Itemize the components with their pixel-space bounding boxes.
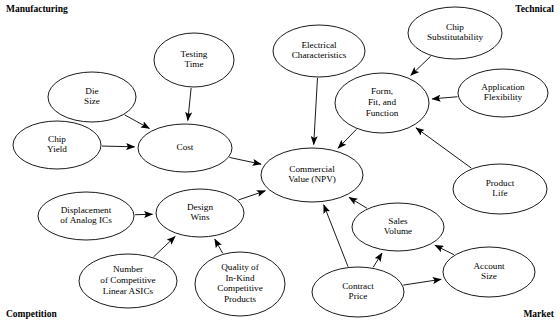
node-commercial[interactable]: CommercialValue (NPV)	[261, 148, 363, 202]
edge-die_size-to-cost	[125, 115, 150, 129]
edge-num_competitive-to-design_wins	[154, 236, 176, 256]
node-testing_time[interactable]: TestingTime	[154, 33, 234, 87]
node-cost[interactable]: Cost	[138, 124, 232, 172]
corner-label-technical: Technical	[515, 4, 554, 14]
edge-contract_price-to-account_size	[403, 279, 441, 285]
edge-sales_volume-to-commercial	[349, 197, 367, 208]
node-label-design_wins: DesignWins	[187, 202, 213, 223]
edge-design_wins-to-commercial	[238, 191, 265, 200]
node-label-cost: Cost	[177, 142, 194, 152]
corner-label-market: Market	[523, 309, 554, 319]
edge-testing_time-to-cost	[188, 88, 191, 121]
node-displacement[interactable]: Displacementof Analog ICs	[38, 192, 134, 240]
edge-form_fit-to-commercial	[338, 129, 356, 148]
node-label-commercial: CommercialValue (NPV)	[288, 164, 336, 185]
node-die_size[interactable]: DieSize	[48, 72, 136, 122]
node-design_wins[interactable]: DesignWins	[156, 189, 244, 237]
edge-account_size-to-sales_volume	[435, 245, 454, 254]
node-chip_yield[interactable]: ChipYield	[13, 121, 101, 169]
node-sales_volume[interactable]: SalesVolume	[352, 203, 444, 251]
node-label-quality_inkind: Quality ofIn-KindCompetitiveProducts	[217, 262, 262, 304]
edge-app_flex-to-form_fit	[432, 97, 457, 99]
diagram-svg: DieSizeTestingTimeChipYieldCostElectrica…	[0, 0, 560, 323]
node-quality_inkind[interactable]: Quality ofIn-KindCompetitiveProducts	[195, 252, 285, 316]
edge-contract_price-to-sales_volume	[373, 253, 382, 267]
node-num_competitive[interactable]: Numberof CompetitiveLinear ASICs	[79, 254, 177, 308]
node-account_size[interactable]: AccountSize	[443, 247, 535, 297]
influence-diagram-canvas: DieSizeTestingTimeChipYieldCostElectrica…	[0, 0, 560, 323]
edge-cost-to-commercial	[229, 157, 261, 164]
node-app_flex[interactable]: ApplicationFlexibility	[458, 69, 548, 117]
node-contract_price[interactable]: ContractPrice	[312, 267, 404, 317]
corner-label-competition: Competition	[6, 309, 57, 319]
node-chip_sub[interactable]: ChipSubstitutability	[408, 7, 502, 59]
node-label-die_size: DieSize	[84, 86, 100, 107]
nodes-layer: DieSizeTestingTimeChipYieldCostElectrica…	[13, 7, 548, 317]
corner-label-manufacturing: Manufacturing	[6, 4, 68, 14]
edge-chip_sub-to-form_fit	[411, 56, 431, 75]
node-product_life[interactable]: ProductLife	[453, 164, 547, 214]
edge-quality_inkind-to-design_wins	[215, 239, 223, 253]
edge-contract_price-to-commercial	[324, 205, 348, 267]
node-form_fit[interactable]: Form,Fit, andFunction	[335, 73, 429, 133]
node-label-chip_yield: ChipYield	[47, 134, 67, 155]
edge-chip_yield-to-cost	[102, 146, 135, 147]
node-electrical[interactable]: ElectricalCharacteristics	[273, 25, 365, 77]
edge-electrical-to-commercial	[314, 78, 318, 145]
node-label-app_flex: ApplicationFlexibility	[481, 82, 525, 103]
edge-product_life-to-form_fit	[416, 128, 471, 168]
node-label-displacement: Displacementof Analog ICs	[60, 205, 112, 226]
